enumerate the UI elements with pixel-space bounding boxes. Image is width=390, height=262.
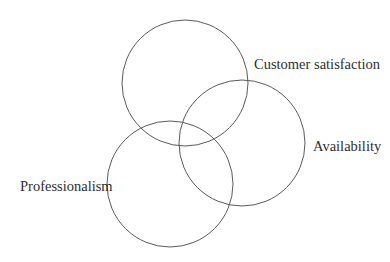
label-professionalism: Professionalism	[20, 179, 113, 194]
circle-professionalism	[107, 121, 233, 247]
label-customer-satisfaction: Customer satisfaction	[254, 57, 380, 72]
circle-availability	[179, 80, 305, 206]
venn-diagram	[0, 0, 390, 262]
circle-customer-satisfaction	[122, 20, 248, 146]
label-availability: Availability	[313, 139, 381, 154]
